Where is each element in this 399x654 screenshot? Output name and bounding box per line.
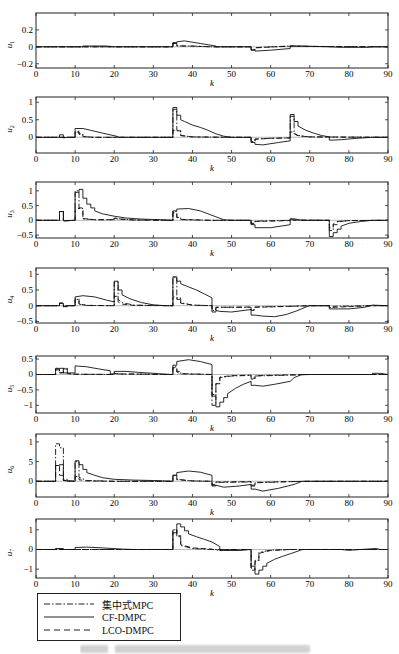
x-tick-label: 30	[149, 498, 159, 508]
y-tick-label: 0.5	[22, 201, 34, 211]
x-tick-label: 60	[266, 579, 276, 589]
y-tick-label: 5	[29, 457, 34, 467]
y-tick-label: 0	[29, 215, 34, 225]
x-tick-label: 60	[266, 498, 276, 508]
x-tick-label: 20	[110, 239, 120, 249]
x-tick-label: 80	[344, 324, 354, 334]
subplot-u4: 0102030405060708090k10.50−0.5u4	[4, 268, 393, 343]
series-CF-DMPC	[36, 108, 388, 145]
series-CF-DMPC	[36, 189, 388, 236]
x-tick-label: 60	[266, 414, 276, 424]
y-tick-label: 0	[29, 132, 34, 142]
x-tick-label: 60	[266, 239, 276, 249]
figure-caption-illegible	[80, 643, 320, 654]
x-tick-label: 40	[188, 579, 198, 589]
x-tick-label: 50	[227, 324, 237, 334]
y-tick-label: 0.5	[22, 285, 34, 295]
x-tick-label: 40	[188, 324, 198, 334]
x-tick-label: 40	[188, 69, 198, 79]
x-tick-label: 10	[71, 324, 81, 334]
y-axis-label: u6	[4, 466, 15, 474]
series-CF-DMPC	[36, 461, 388, 491]
plot-frame	[36, 434, 388, 497]
plot-frame	[36, 182, 388, 238]
x-tick-label: 40	[188, 239, 198, 249]
x-tick-label: 80	[344, 154, 354, 164]
x-tick-label: 90	[384, 324, 394, 334]
plot-frame	[36, 519, 388, 578]
y-tick-label: −1	[23, 400, 33, 410]
y-tick-label: 1	[29, 525, 34, 535]
x-tick-label: 20	[110, 69, 120, 79]
x-tick-label: 0	[34, 154, 39, 164]
x-tick-label: 50	[227, 579, 237, 589]
y-tick-label: 1	[29, 186, 34, 196]
y-tick-label: 1	[29, 97, 34, 107]
x-tick-label: 70	[305, 154, 315, 164]
x-tick-label: 40	[188, 154, 198, 164]
x-tick-label: 20	[110, 579, 120, 589]
x-tick-label: 30	[149, 69, 159, 79]
subplot-u5: 0102030405060708090k0.50−0.5−1u5	[4, 354, 393, 433]
x-tick-label: 50	[227, 154, 237, 164]
subplot-u1: 0102030405060708090k0.20−0.2u1	[4, 13, 393, 88]
x-tick-label: 80	[344, 414, 354, 424]
y-axis-label: u3	[4, 210, 15, 218]
y-tick-label: −1	[23, 564, 33, 574]
x-tick-label: 30	[149, 579, 159, 589]
x-tick-label: 10	[71, 239, 81, 249]
x-tick-label: 80	[344, 498, 354, 508]
x-tick-label: 40	[188, 414, 198, 424]
y-tick-label: 0	[29, 544, 34, 554]
x-tick-label: 20	[110, 324, 120, 334]
y-tick-label: 0.5	[22, 115, 34, 125]
x-tick-label: 30	[149, 239, 159, 249]
x-tick-label: 10	[71, 69, 81, 79]
y-tick-label: 0	[29, 42, 34, 52]
x-tick-label: 60	[266, 154, 276, 164]
series-CF-DMPC	[36, 277, 388, 317]
x-tick-label: 10	[71, 579, 81, 589]
y-tick-label: 0	[29, 301, 34, 311]
x-tick-label: 70	[305, 69, 315, 79]
subplot-u6: 0102030405060708090k150u6	[4, 434, 393, 517]
x-tick-label: 90	[384, 498, 394, 508]
y-tick-label: 0	[29, 476, 34, 486]
x-tick-label: 90	[384, 414, 394, 424]
y-axis-label: u1	[4, 41, 15, 49]
x-tick-label: 70	[305, 498, 315, 508]
plot-frame	[36, 13, 388, 68]
solid-line-icon	[44, 614, 94, 620]
x-tick-label: 70	[305, 414, 315, 424]
x-tick-label: 0	[34, 414, 39, 424]
x-tick-label: 50	[227, 414, 237, 424]
y-tick-label: −0.5	[17, 230, 34, 240]
x-tick-label: 20	[110, 498, 120, 508]
x-tick-label: 10	[71, 414, 81, 424]
dash-dot-line-icon	[44, 601, 94, 607]
x-axis-label: k	[210, 507, 215, 517]
y-tick-label: 0	[29, 369, 34, 379]
x-tick-label: 0	[34, 579, 39, 589]
x-tick-label: 0	[34, 69, 39, 79]
legend-item-cf-dmpc: CF-DMPC	[44, 610, 146, 624]
control-input-figure: 0102030405060708090k0.20−0.2u10102030405…	[0, 0, 399, 654]
x-tick-label: 30	[149, 324, 159, 334]
x-axis-label: k	[210, 333, 215, 343]
x-tick-label: 80	[344, 239, 354, 249]
y-axis-label: u7	[4, 549, 15, 557]
y-tick-label: 1	[29, 269, 34, 279]
series-CF-DMPC	[36, 41, 388, 51]
y-tick-label: 0.2	[22, 25, 33, 35]
y-tick-label: −0.5	[17, 385, 34, 395]
legend-item-centralized-mpc: 集中式MPC	[44, 597, 153, 611]
x-tick-label: 0	[34, 239, 39, 249]
x-tick-label: 80	[344, 69, 354, 79]
subplot-u7: 0102030405060708090k10−1u7	[4, 519, 393, 598]
x-tick-label: 30	[149, 414, 159, 424]
x-tick-label: 10	[71, 154, 81, 164]
x-tick-label: 20	[110, 154, 120, 164]
x-tick-label: 90	[384, 69, 394, 79]
x-tick-label: 70	[305, 579, 315, 589]
x-tick-label: 50	[227, 239, 237, 249]
